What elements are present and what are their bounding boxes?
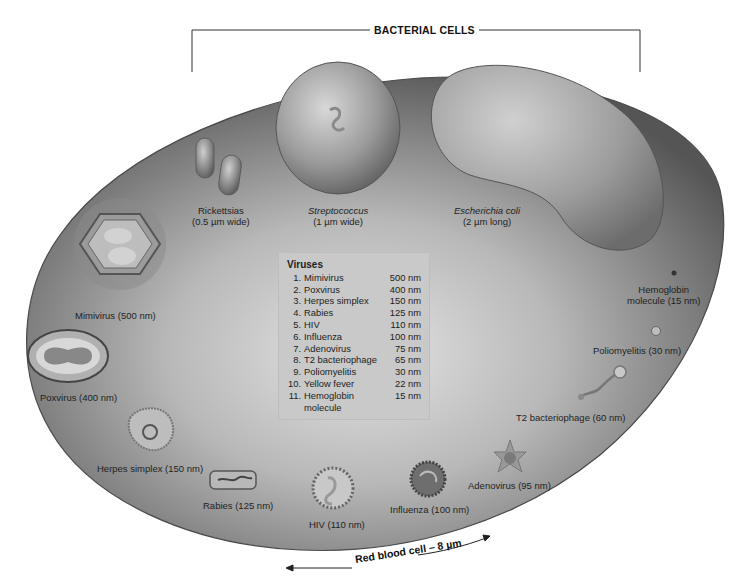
bacterial-cells-heading: BACTERIAL CELLS [370,24,479,36]
label-t2-bacteriophage: T2 bacteriophage (60 nm) [516,412,625,423]
legend-row-continuation: molecule [287,402,421,414]
poliomyelitis-shape [652,327,661,336]
legend-row: 1.Mimivirus500 nm [287,272,421,284]
legend-row: 4.Rabies125 nm [287,307,421,319]
label-hemoglobin: Hemoglobin molecule (15 nm) [627,284,700,306]
legend-row: 8.T2 bacteriophage65 nm [287,354,421,366]
label-herpes-simplex: Herpes simplex (150 nm) [97,463,203,474]
legend-row: 6.Influenza100 nm [287,331,421,343]
legend-row: 5.HIV110 nm [287,319,421,331]
legend-row: 3.Herpes simplex150 nm [287,295,421,307]
label-poliomyelitis: Poliomyelitis (30 nm) [593,345,681,356]
bacterial-cells-bracket [192,30,640,72]
mimivirus-shape [74,198,166,290]
influenza-shape [411,462,445,496]
legend-row: 9.Poliomyelitis30 nm [287,366,421,378]
label-influenza: Influenza (100 nm) [390,504,469,515]
poxvirus-shape [28,330,108,382]
viruses-legend-box: Viruses 1.Mimivirus500 nm 2.Poxvirus400 … [278,252,430,420]
label-rabies: Rabies (125 nm) [203,500,273,511]
rickettsia-1 [196,138,214,178]
label-adenovirus: Adenovirus (95 nm) [468,480,551,491]
label-hiv: HIV (110 nm) [309,519,365,530]
legend-row: 11.Hemoglobin15 nm [287,390,421,402]
label-rickettsias: Rickettsias (0.5 µm wide) [192,205,250,227]
legend-row: 2.Poxvirus400 nm [287,284,421,296]
hiv-shape [313,468,353,508]
viruses-legend-title: Viruses [287,259,421,271]
label-poxvirus: Poxvirus (400 nm) [40,392,117,403]
legend-row: 7.Adenovirus75 nm [287,343,421,355]
legend-row: 10.Yellow fever22 nm [287,378,421,390]
hemoglobin-shape [672,271,677,276]
label-mimivirus: Mimivirus (500 nm) [75,310,156,321]
label-streptococcus: Streptococcus (1 µm wide) [308,205,368,227]
label-escherichia-coli: Escherichia coli (2 µm long) [454,205,520,227]
streptococcus-shape [276,62,400,194]
